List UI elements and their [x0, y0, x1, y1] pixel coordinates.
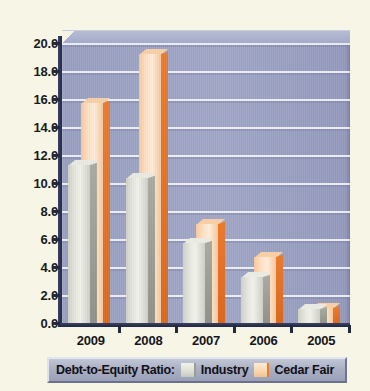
bar-side-face: [148, 175, 155, 326]
y-axis-tick-mark: [52, 238, 60, 241]
bar-industry: [241, 277, 263, 326]
x-axis-tick-mark: [348, 325, 351, 333]
plot-face: [62, 43, 350, 326]
chart-legend: Debt-to-Equity Ratio: Industry Cedar Fai…: [47, 357, 347, 383]
legend-label-industry: Industry: [201, 363, 249, 377]
plot-area: [62, 30, 350, 326]
y-axis-tick-mark: [52, 294, 60, 297]
legend-swatch-cedar-fair-icon: [254, 363, 269, 377]
legend-entry-industry: Industry: [181, 363, 249, 377]
x-axis-category-label: 2009: [62, 334, 120, 347]
bar-front-face: [183, 243, 205, 326]
bar-side-face: [263, 275, 270, 326]
x-axis-tick-mark: [233, 325, 236, 333]
legend-label-cedar-fair: Cedar Fair: [274, 363, 334, 377]
legend-swatch-industry-icon: [181, 363, 196, 377]
bar-industry: [126, 178, 148, 326]
y-axis-tick-mark: [52, 154, 60, 157]
y-axis-tick-mark: [52, 182, 60, 185]
x-axis-category-label: 2005: [292, 334, 350, 347]
y-axis-tick-mark: [52, 42, 60, 45]
bar-side-face: [90, 163, 97, 326]
x-axis-line: [58, 323, 350, 327]
bar-side-face: [161, 52, 168, 326]
legend-entry-cedar-fair: Cedar Fair: [254, 363, 334, 377]
x-axis-category-label: 2008: [120, 334, 178, 347]
x-axis-labels: 20092008200720062005: [0, 334, 370, 354]
bar-side-face: [276, 255, 283, 326]
y-axis-tick-mark: [52, 126, 60, 129]
bar-side-face: [218, 222, 225, 326]
bar-industry: [68, 165, 90, 326]
bar-front-face: [241, 277, 263, 326]
legend-title: Debt-to-Equity Ratio:: [56, 363, 175, 377]
x-axis-tick-mark: [175, 325, 178, 333]
bar-side-face: [205, 241, 212, 326]
y-axis-tick-mark: [52, 210, 60, 213]
debt-to-equity-bar-chart: 20.018.016.014.012.010.08.06.04.02.00.0 …: [0, 0, 370, 391]
x-axis-category-label: 2006: [235, 334, 293, 347]
gridline: [62, 71, 350, 73]
y-axis-tick-mark: [52, 70, 60, 73]
y-axis-labels: 20.018.016.014.012.010.08.06.04.02.00.0: [12, 0, 58, 391]
x-axis-tick-mark: [290, 325, 293, 333]
x-axis-tick-mark: [118, 325, 121, 333]
x-axis-category-label: 2007: [177, 334, 235, 347]
bar-front-face: [126, 178, 148, 326]
gridline: [62, 43, 350, 45]
y-axis-tick-mark: [52, 266, 60, 269]
bar-side-face: [103, 101, 110, 326]
bar-front-face: [68, 165, 90, 326]
y-axis-tick-mark: [52, 98, 60, 101]
bar-industry: [183, 243, 205, 326]
y-axis-tick-mark: [52, 322, 60, 325]
